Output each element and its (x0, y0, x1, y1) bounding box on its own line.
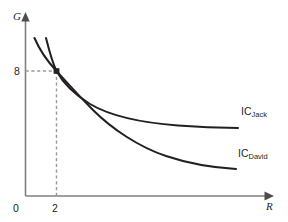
x-axis-tick-2: 2 (52, 203, 58, 214)
y-axis-label: G (13, 11, 21, 22)
curve-label-ic-david-text: IC (238, 147, 249, 159)
origin-tick-label: 0 (13, 203, 19, 214)
y-axis-arrow-icon (21, 12, 29, 22)
intersection-point-marker (54, 68, 60, 74)
curve-ic-david (35, 38, 237, 169)
curve-label-ic-jack-text: IC (241, 105, 252, 117)
curve-label-ic-david-subscript: David (249, 152, 268, 161)
curve-label-ic-david: ICDavid (238, 148, 268, 159)
y-axis-tick-8: 8 (14, 66, 20, 77)
x-axis-label: R (266, 201, 273, 212)
curve-ic-jack (46, 38, 238, 128)
curve-label-ic-jack-subscript: Jack (252, 110, 267, 119)
indifference-curve-figure: G R 8 0 2 ICJack ICDavid (0, 0, 288, 222)
curve-label-ic-jack: ICJack (241, 106, 267, 117)
